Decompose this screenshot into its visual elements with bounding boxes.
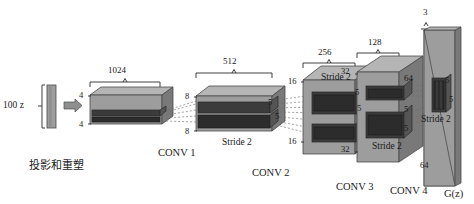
spatial-top-label-conv3: 32 xyxy=(341,67,350,76)
channels-label-conv3: 128 xyxy=(368,38,382,47)
layer-name-conv1: CONV 1 xyxy=(158,148,195,159)
spatial-bottom-label-conv4: 64 xyxy=(420,161,429,170)
spatial-top-label-projection: 4 xyxy=(79,91,83,100)
layer-name-conv4: CONV 4 xyxy=(390,186,427,197)
latent-vector-label: 100 z xyxy=(3,101,24,111)
channels-label-projection: 1024 xyxy=(108,66,126,75)
layer-name-conv2: CONV 2 xyxy=(252,168,289,179)
channels-label-conv2: 256 xyxy=(318,48,332,57)
kernel-label-output-bottom: 5 xyxy=(449,95,453,104)
architecture-drawing: .ln { stroke:#4a4a4a; stroke-width:0.8; … xyxy=(0,0,474,204)
latent-vector-glyph xyxy=(38,85,56,128)
kernel-label-conv3-in-top: 5 xyxy=(404,105,408,114)
projection-arrow-icon xyxy=(64,99,82,112)
spatial-bottom-label-conv2: 16 xyxy=(288,137,297,146)
stride-label-conv4: Stride 2 xyxy=(421,115,451,125)
kernel-label-conv1-out: 5 xyxy=(275,112,279,121)
output-label-gz: G(z) xyxy=(444,189,463,200)
channels-label-conv4: 64 xyxy=(404,74,413,83)
spatial-bottom-label-conv1: 8 xyxy=(185,127,189,136)
spatial-bottom-label-projection: 4 xyxy=(79,120,83,129)
kernel-label-conv3-in-bottom: 5 xyxy=(404,124,408,133)
spatial-top-label-conv1: 8 xyxy=(185,92,189,101)
kernel-label-conv2-in: 5 xyxy=(268,98,272,107)
spatial-top-label-conv2: 16 xyxy=(288,77,297,86)
kernel-label-conv2-out-bottom: 5 xyxy=(357,104,361,113)
stride-label-conv1: Stride 2 xyxy=(222,138,252,148)
block-projection xyxy=(88,79,173,125)
layer-name-conv3: CONV 3 xyxy=(336,182,373,193)
spatial-bottom-label-conv3: 32 xyxy=(341,145,350,154)
stride-label-conv3: Stride 2 xyxy=(372,142,402,152)
kernel-label-output-top: 5 xyxy=(445,76,449,85)
kernel-label-conv2-out-top: 5 xyxy=(355,88,359,97)
projection-reshape-caption: 投影和重塑 xyxy=(29,160,84,171)
channels-label-conv1: 512 xyxy=(223,57,237,66)
dcgan-architecture-figure: .ln { stroke:#4a4a4a; stroke-width:0.8; … xyxy=(0,0,474,204)
channels-label-output: 3 xyxy=(423,8,428,17)
